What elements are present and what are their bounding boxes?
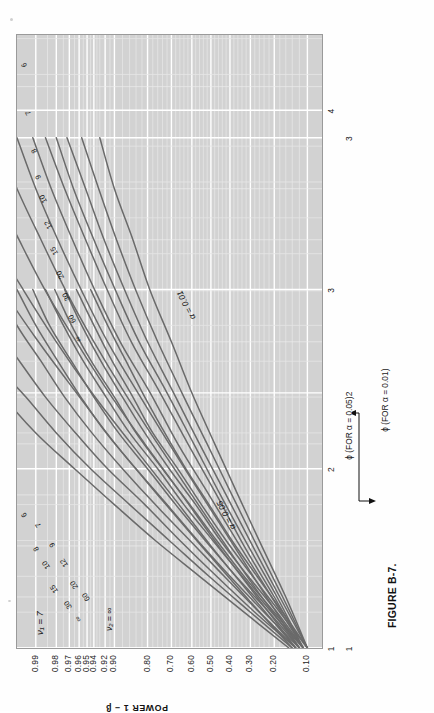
power-tick-label: 0.98: [50, 655, 60, 697]
power-tick-label: 0.94: [88, 655, 98, 697]
nu-denominator-label: ν₂ = ∞: [104, 608, 114, 631]
power-curve: [17, 290, 296, 649]
power-axis-title: POWER 1 − β: [105, 703, 168, 713]
power-curve: [17, 290, 296, 649]
power-curve: [17, 138, 299, 648]
power-curve: [17, 138, 299, 648]
phi-005-tick-label: 1: [326, 647, 336, 652]
power-tick-label: 0.20: [268, 655, 278, 697]
power-curve-plot: [16, 34, 323, 649]
power-tick-label: 0.30: [244, 655, 254, 697]
phi-005-tick-label: 2: [326, 467, 336, 472]
page-speck: [8, 600, 11, 602]
power-tick-label: 0.60: [186, 655, 196, 697]
power-curves: [17, 35, 322, 648]
power-tick-label: 0.70: [165, 655, 175, 697]
phi-005-tick-label: 3: [326, 288, 336, 293]
power-curve: [65, 290, 304, 649]
phi-alpha-001-caption: ϕ (FOR α = 0.01): [380, 369, 390, 432]
phi-axis-arrows: [352, 36, 378, 649]
power-tick-label: 0.80: [142, 655, 152, 697]
power-tick-label: 0.50: [205, 655, 215, 697]
power-tick-label: 0.99: [30, 655, 40, 697]
page-speck: [10, 18, 13, 21]
power-tick-label: 0.90: [108, 655, 118, 697]
nu-numerator-label: ν₁ = 7: [34, 611, 45, 635]
power-tick-label: 0.40: [224, 655, 234, 697]
phi-alpha-005-caption: ϕ (FOR α = 0.05): [344, 396, 354, 459]
power-tick-label: 0.97: [63, 655, 73, 697]
phi-005-tick-label: 4: [326, 109, 336, 114]
figure-caption: FIGURE B-7.: [386, 563, 398, 628]
power-tick-label: 0.10: [301, 655, 311, 697]
